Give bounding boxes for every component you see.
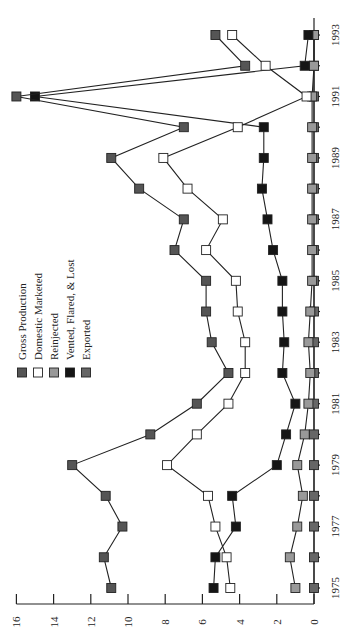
data-point-marker — [224, 368, 233, 377]
data-point-marker — [241, 61, 250, 70]
data-point-marker — [291, 399, 300, 408]
data-point-marker — [202, 307, 211, 316]
legend-swatch-icon — [82, 368, 91, 377]
data-point-marker — [308, 153, 317, 162]
data-point-marker — [207, 338, 216, 347]
data-point-marker — [118, 522, 127, 531]
data-point-marker — [310, 61, 319, 70]
data-point-marker — [278, 276, 287, 285]
value-tick-label: 8 — [159, 619, 171, 625]
legend-item: Vented, Flared, & Lost — [64, 259, 76, 377]
year-tick-label: 1985 — [329, 269, 341, 292]
data-point-marker — [280, 338, 289, 347]
data-point-marker — [293, 461, 302, 470]
data-point-marker — [278, 307, 287, 316]
data-point-marker — [306, 307, 315, 316]
series-domestic-marketed — [159, 31, 311, 593]
series-line — [35, 35, 308, 588]
data-point-marker — [202, 276, 211, 285]
data-point-marker — [310, 522, 319, 531]
year-tick-label: 1991 — [329, 85, 341, 107]
data-point-marker — [308, 215, 317, 224]
value-tick-label: 14 — [48, 616, 60, 628]
data-point-marker — [68, 461, 77, 470]
data-point-marker — [308, 184, 317, 193]
data-point-marker — [203, 491, 212, 500]
data-point-marker — [257, 184, 266, 193]
rotated-line-chart: 0246810121416 19751977197919811983198519… — [0, 0, 361, 635]
value-tick-label: 10 — [122, 616, 134, 628]
data-point-marker — [263, 215, 272, 224]
data-point-marker — [183, 184, 192, 193]
data-point-marker — [302, 92, 311, 101]
data-point-marker — [233, 123, 242, 132]
data-point-marker — [222, 553, 231, 562]
data-point-marker — [310, 430, 319, 439]
data-point-marker — [300, 430, 309, 439]
data-point-marker — [241, 338, 250, 347]
data-point-marker — [310, 584, 319, 593]
data-point-marker — [308, 276, 317, 285]
data-point-marker — [224, 399, 233, 408]
series-gross-production — [12, 31, 250, 593]
data-point-marker — [306, 368, 315, 377]
data-point-marker — [298, 491, 307, 500]
legend: Gross ProductionDomestic MarketedReinjec… — [16, 259, 92, 377]
year-tick-label: 1977 — [329, 515, 341, 538]
data-point-marker — [308, 246, 317, 255]
data-point-marker — [272, 461, 281, 470]
data-point-marker — [135, 184, 144, 193]
data-point-marker — [241, 368, 250, 377]
data-point-marker — [291, 584, 300, 593]
data-point-marker — [304, 31, 313, 40]
data-point-marker — [300, 61, 309, 70]
data-point-marker — [259, 153, 268, 162]
data-point-marker — [310, 553, 319, 562]
data-point-marker — [146, 430, 155, 439]
data-point-marker — [285, 553, 294, 562]
data-point-marker — [211, 553, 220, 562]
data-point-marker — [261, 61, 270, 70]
legend-label: Vented, Flared, & Lost — [64, 259, 76, 360]
data-point-marker — [231, 276, 240, 285]
value-tick-label: 2 — [271, 619, 283, 625]
data-point-marker — [310, 491, 319, 500]
data-point-marker — [209, 584, 218, 593]
data-point-marker — [192, 430, 201, 439]
data-point-marker — [211, 31, 220, 40]
year-tick-label: 1981 — [329, 393, 341, 415]
year-tick-label: 1975 — [329, 577, 341, 600]
data-point-marker — [107, 584, 116, 593]
series-layer — [12, 31, 319, 593]
data-point-marker — [282, 430, 291, 439]
data-point-marker — [218, 215, 227, 224]
data-point-marker — [101, 491, 110, 500]
legend-swatch-icon — [50, 368, 59, 377]
legend-label: Exported — [80, 319, 92, 360]
data-point-marker — [304, 399, 313, 408]
data-point-marker — [231, 522, 240, 531]
data-point-marker — [310, 461, 319, 470]
year-tick-label: 1983 — [329, 331, 341, 354]
data-point-marker — [202, 246, 211, 255]
value-tick-label: 0 — [308, 619, 320, 625]
legend-swatch-icon — [66, 368, 75, 377]
legend-label: Domestic Marketed — [32, 272, 44, 360]
data-point-marker — [228, 491, 237, 500]
data-point-marker — [179, 123, 188, 132]
data-point-marker — [107, 153, 116, 162]
legend-swatch-icon — [34, 368, 43, 377]
legend-label: Reinjected — [48, 312, 60, 360]
legend-item: Reinjected — [48, 312, 60, 377]
year-tick-label: 1993 — [329, 24, 341, 47]
data-point-marker — [278, 368, 287, 377]
data-point-marker — [211, 522, 220, 531]
data-point-marker — [269, 246, 278, 255]
value-tick-label: 12 — [85, 617, 97, 628]
legend-item: Domestic Marketed — [32, 272, 44, 377]
data-point-marker — [12, 92, 21, 101]
data-point-marker — [192, 399, 201, 408]
year-tick-label: 1979 — [329, 454, 341, 477]
year-tick-label: 1987 — [329, 208, 341, 231]
data-point-marker — [308, 123, 317, 132]
